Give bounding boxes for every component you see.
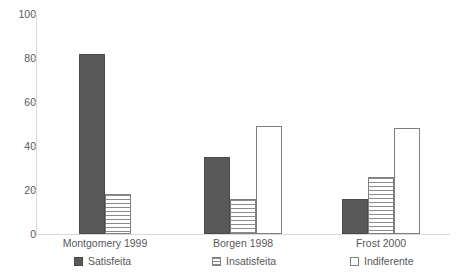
y-axis-tick-mark xyxy=(32,190,36,191)
bar-group-bars xyxy=(79,14,131,234)
x-axis-category-label: Montgomery 1999 xyxy=(36,236,174,252)
bar-insatisfeita xyxy=(105,194,131,234)
bar-group-bars xyxy=(342,14,420,234)
bar-group xyxy=(312,14,450,234)
legend-item-insatisfeita[interactable]: Insatisfeita xyxy=(174,252,312,270)
bar-chart: 100806040200 Montgomery 1999Borgen 1998F… xyxy=(0,0,467,273)
legend-item-satisfeita[interactable]: Satisfeita xyxy=(36,252,174,270)
legend-swatch-icon xyxy=(74,257,83,266)
legend-item-label: Satisfeita xyxy=(88,256,131,267)
plot-area xyxy=(36,14,450,234)
bar-insatisfeita xyxy=(230,199,256,234)
legend-item-indiferente[interactable]: Indiferente xyxy=(312,252,450,270)
y-axis-tick: 0 xyxy=(0,229,36,239)
chart-legend: SatisfeitaInsatisfeitaIndiferente xyxy=(36,252,450,270)
bar-group xyxy=(36,14,174,234)
bar-group xyxy=(174,14,312,234)
y-axis: 100806040200 xyxy=(0,0,36,273)
bar-indiferente xyxy=(256,126,282,234)
bar-insatisfeita xyxy=(368,177,394,234)
bar-satisfeita xyxy=(204,157,230,234)
x-axis-category-label: Borgen 1998 xyxy=(174,236,312,252)
y-axis-tick-mark xyxy=(32,102,36,103)
bar-satisfeita xyxy=(342,199,368,234)
legend-item-label: Insatisfeita xyxy=(226,256,276,267)
x-axis-category-labels: Montgomery 1999Borgen 1998Frost 2000 xyxy=(36,236,450,252)
y-axis-tick-mark xyxy=(32,58,36,59)
y-axis-tick: 80 xyxy=(0,53,36,63)
y-axis-tick: 40 xyxy=(0,141,36,151)
x-axis-line xyxy=(36,234,450,235)
bar-indiferente xyxy=(394,128,420,234)
x-axis-category-label: Frost 2000 xyxy=(312,236,450,252)
bar-group-bars xyxy=(204,14,282,234)
legend-swatch-icon xyxy=(350,257,359,266)
y-axis-tick-mark xyxy=(32,14,36,15)
y-axis-tick: 100 xyxy=(0,9,36,19)
y-axis-tick: 20 xyxy=(0,185,36,195)
legend-item-label: Indiferente xyxy=(364,256,414,267)
bar-satisfeita xyxy=(79,54,105,234)
y-axis-tick-label: 0 xyxy=(8,229,36,239)
legend-swatch-icon xyxy=(212,257,221,266)
y-axis-tick: 60 xyxy=(0,97,36,107)
y-axis-tick-mark xyxy=(32,146,36,147)
